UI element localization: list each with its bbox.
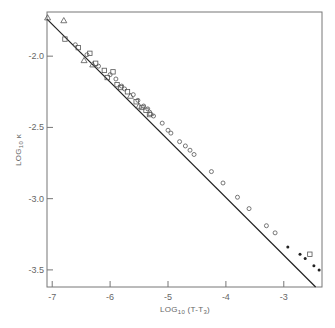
square-marker [102, 68, 106, 72]
circle-marker [131, 93, 135, 97]
circle-marker [235, 195, 239, 199]
x-tick-label: -3 [280, 292, 288, 302]
data-points [45, 15, 321, 272]
x-axis-label: LOG10 (T-T3) [160, 305, 210, 315]
circle-marker [273, 231, 277, 235]
x-tick-label: -5 [164, 292, 172, 302]
circle-marker [183, 144, 187, 148]
circle-marker [160, 121, 164, 125]
dot-marker [318, 268, 321, 271]
circle-marker [146, 107, 150, 111]
circle-marker [188, 148, 192, 152]
chart-canvas: -7-6-5-4-3 -2.0-2.5-3.0-3.5 LOG10 (T-T3)… [0, 0, 335, 328]
x-tick-label: -6 [106, 292, 114, 302]
circle-marker [73, 43, 77, 47]
dot-marker [286, 246, 289, 249]
y-axis-label: LOG10 κ [14, 133, 24, 166]
regression-line [47, 19, 316, 287]
circle-marker [142, 104, 146, 108]
dot-marker [312, 264, 315, 267]
circle-marker [114, 77, 118, 81]
dot-marker [299, 253, 302, 256]
triangle-marker [61, 18, 67, 23]
circle-marker [209, 170, 213, 174]
circle-marker [85, 53, 89, 57]
y-tick-label: -2.0 [28, 51, 44, 61]
x-tick-label: -7 [48, 292, 56, 302]
square-marker [308, 252, 312, 256]
fit-line [47, 19, 316, 287]
circle-marker [221, 181, 225, 185]
x-axis: -7-6-5-4-3 [48, 281, 288, 302]
circle-marker [178, 140, 182, 144]
circle-marker [169, 131, 173, 135]
circle-marker [192, 152, 196, 156]
circle-marker [136, 98, 140, 102]
y-tick-label: -2.5 [28, 122, 44, 132]
circle-marker [247, 207, 251, 211]
circle-marker [97, 64, 101, 68]
y-tick-label: -3.5 [28, 265, 44, 275]
circle-marker [264, 224, 268, 228]
circle-marker [108, 73, 112, 77]
circle-marker [123, 87, 127, 91]
dot-marker [304, 257, 307, 260]
x-tick-label: -4 [222, 292, 230, 302]
y-axis: -2.0-2.5-3.0-3.5 [28, 51, 53, 275]
y-tick-label: -3.0 [28, 194, 44, 204]
